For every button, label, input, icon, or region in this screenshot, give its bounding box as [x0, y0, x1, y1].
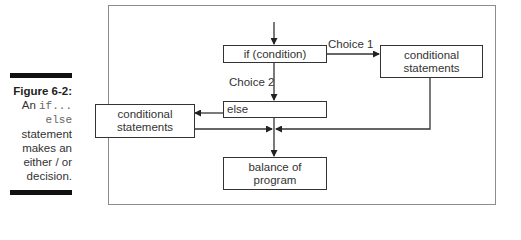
choice-1-label: Choice 1: [328, 38, 373, 50]
balance-of-program-box: balance of program: [223, 157, 327, 190]
balance-line2: program: [254, 174, 297, 187]
if-condition-box: if (condition): [223, 45, 327, 63]
cond-right-line1: conditional: [404, 49, 459, 62]
else-box: else: [223, 101, 327, 118]
conditional-statements-box-right: conditional statements: [380, 45, 483, 78]
cond-left-line1: conditional: [118, 108, 173, 121]
balance-line1: balance of: [248, 161, 301, 174]
cond-right-line2: statements: [403, 62, 459, 75]
choice-2-label: Choice 2: [229, 76, 274, 88]
conditional-statements-box-left: conditional statements: [95, 104, 195, 138]
if-condition-label: if (condition): [244, 48, 307, 61]
cond-left-line2: statements: [117, 121, 173, 134]
else-label: else: [227, 103, 248, 116]
